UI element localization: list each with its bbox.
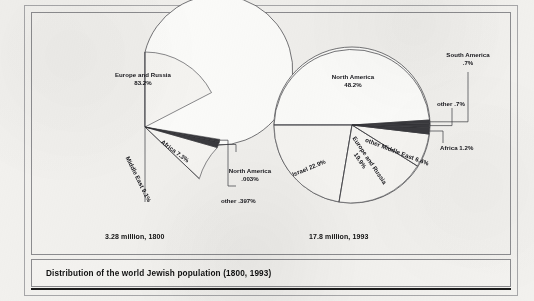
label-north-america-1993: North America 48.2% bbox=[305, 73, 401, 89]
label-europe-russia-1800: Europe and Russia 83.2% bbox=[88, 71, 198, 87]
label-north-america-1800-value: .003% bbox=[241, 175, 259, 182]
leader-north-america-1800 bbox=[219, 145, 236, 153]
figure-page: Europe and Russia 83.2% Middle East 9.1%… bbox=[0, 0, 534, 301]
label-south-america-1993-name: South America bbox=[446, 51, 489, 58]
label-africa-1993: Africa 1.2% bbox=[440, 144, 473, 152]
total-1800: 3.28 million, 1800 bbox=[105, 233, 164, 240]
label-north-america-1800-name: North America bbox=[229, 167, 271, 174]
label-europe-russia-1800-value: 83.2% bbox=[134, 79, 152, 86]
label-north-america-1993-value: 48.2% bbox=[344, 81, 362, 88]
label-north-america-1800: North America .003% bbox=[221, 167, 279, 183]
leader-africa-1993 bbox=[429, 131, 443, 143]
leader-south-america-1993 bbox=[430, 72, 468, 122]
total-1993: 17.8 million, 1993 bbox=[309, 233, 368, 240]
label-south-america-1993-value: .7% bbox=[463, 59, 474, 66]
caption-underline bbox=[31, 288, 511, 290]
label-north-america-1993-name: North America bbox=[332, 73, 374, 80]
label-south-america-1993: South America .7% bbox=[432, 51, 504, 67]
caption-box: Distribution of the world Jewish populat… bbox=[31, 259, 511, 287]
label-other-1993: other .7% bbox=[437, 100, 465, 108]
label-europe-russia-1800-name: Europe and Russia bbox=[115, 71, 171, 78]
pie-chart-1993 bbox=[274, 47, 430, 203]
label-other-1800: other .397% bbox=[221, 197, 256, 205]
leader-other-1993 bbox=[430, 108, 452, 126]
figure-caption: Distribution of the world Jewish populat… bbox=[32, 269, 271, 278]
